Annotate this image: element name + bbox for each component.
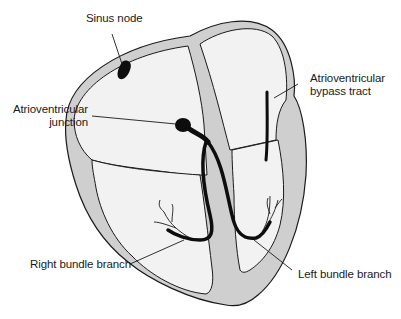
label-av-junction-line1: Atrioventricular <box>8 103 88 116</box>
av-bypass-tract <box>266 92 267 160</box>
label-bypass-line2: bypass tract <box>310 85 385 98</box>
heart-conduction-diagram: Sinus node Atrioventricular junction Atr… <box>0 0 401 319</box>
label-bypass-line1: Atrioventricular <box>310 72 385 85</box>
label-bypass-tract: Atrioventricular bypass tract <box>310 72 385 98</box>
label-left-bundle-branch: Left bundle branch <box>298 268 391 281</box>
label-sinus-node: Sinus node <box>86 12 143 25</box>
label-av-junction-line2: junction <box>8 116 88 129</box>
label-av-junction: Atrioventricular junction <box>8 103 88 129</box>
right-atrium-chamber <box>74 46 207 175</box>
label-right-bundle-branch: Right bundle branch <box>30 258 131 271</box>
